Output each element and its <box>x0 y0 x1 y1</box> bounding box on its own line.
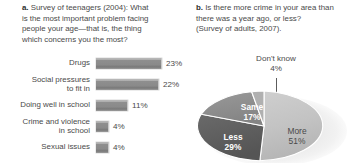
bar-label: Drugs <box>0 58 96 68</box>
bar-track: 11% <box>96 100 182 112</box>
pie-label-same-name: Same <box>241 102 263 112</box>
pie-label-more-name: More <box>287 126 306 136</box>
bar-label: Doing well in school <box>0 100 96 110</box>
panel-b: b. Is there more crime in your area than… <box>182 0 364 163</box>
bar-track: 22% <box>96 79 182 91</box>
panel-a-caption-line-4: which concerns you the most? <box>22 35 179 46</box>
bar-label: Sexual issues <box>0 142 96 152</box>
panel-b-caption-line-2: there was a year ago, or less? <box>196 14 362 25</box>
bar-row: Sexual issues 4% <box>0 142 182 163</box>
figure-container: a. Survey of teenagers (2004): What is t… <box>0 0 364 163</box>
pie-callout-dont-know: Don't know 4% <box>240 54 312 75</box>
pie-label-more-value: 51% <box>274 136 320 146</box>
bar-fill <box>96 79 159 90</box>
bar-track: 23% <box>96 58 182 70</box>
bar-fill <box>96 142 109 153</box>
bar-value: 4% <box>113 122 125 132</box>
pie-label-less-value: 29% <box>212 142 254 152</box>
bar-track: 4% <box>96 142 182 154</box>
bar-value: 11% <box>132 101 148 111</box>
panel-b-caption: b. Is there more crime in your area than… <box>196 3 362 35</box>
panel-a-caption-line-2: is the most important problem facing <box>22 14 179 25</box>
bar-fill <box>96 121 109 132</box>
bar-chart: Drugs 23% Social pressures to fit in 22%… <box>0 58 182 163</box>
pie-chart: Don't know 4% <box>182 54 364 163</box>
pie-label-less-name: Less <box>223 132 242 142</box>
bar-track: 4% <box>96 121 182 133</box>
bar-value: 22% <box>163 80 179 90</box>
pie-callout-label: Don't know <box>256 54 296 63</box>
pie-body: More 51% Less 29% Same 17% <box>196 90 348 163</box>
panel-a-caption: a. Survey of teenagers (2004): What is t… <box>22 3 179 45</box>
pie-label-more: More 51% <box>274 126 320 146</box>
pie-label-less: Less 29% <box>212 132 254 152</box>
panel-a: a. Survey of teenagers (2004): What is t… <box>0 0 182 163</box>
bar-label: Crime and violence in school <box>0 117 96 136</box>
pie-label-same: Same 17% <box>230 102 274 122</box>
bar-row: Crime and violence in school 4% <box>0 121 182 142</box>
panel-b-caption-line-1: Is there more crime in your area than <box>203 3 334 12</box>
panel-b-caption-line-3: (Survey of adults, 2007). <box>196 24 362 35</box>
bar-row: Social pressures to fit in 22% <box>0 79 182 100</box>
bar-value: 23% <box>166 59 182 69</box>
pie-callout-value: 4% <box>270 64 282 73</box>
bar-fill <box>96 58 162 69</box>
panel-a-caption-line-3: people your age—that is, the thing <box>22 24 179 35</box>
panel-a-caption-line-1: Survey of teenagers (2004): What <box>29 3 149 12</box>
bar-fill <box>96 100 128 111</box>
bar-value: 4% <box>113 143 125 153</box>
pie-label-same-value: 17% <box>230 112 274 122</box>
bar-label: Social pressures to fit in <box>0 75 96 94</box>
panel-b-marker: b. <box>196 3 203 12</box>
